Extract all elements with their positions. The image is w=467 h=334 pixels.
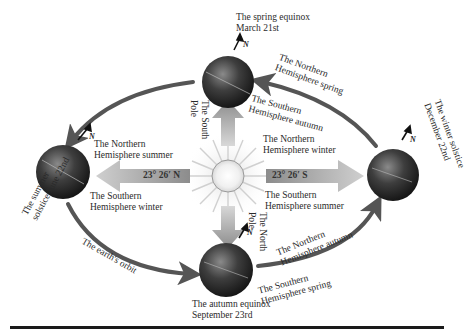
north-marker: N <box>243 40 249 49</box>
south-summer-label: The Southern Hemisphere summer <box>265 190 344 212</box>
spring-equinox-label: The spring equinox March 21st <box>236 12 310 34</box>
north-pole-label: The North Pole <box>246 212 268 251</box>
north-winter-label: The Northern Hemisphere winter <box>263 134 336 156</box>
angle-south-label: 23° 26′ S <box>272 170 308 180</box>
south-winter-label: The Southern Hemisphere winter <box>90 191 163 213</box>
autumn-equinox-label: The autumn equinox September 23rd <box>192 299 271 321</box>
globe-autumn <box>199 243 253 297</box>
south-pole-label: The South Pole <box>188 100 210 139</box>
bottom-rule <box>10 326 444 329</box>
north-marker: N <box>410 135 416 144</box>
north-summer-label: The Northern Hemisphere summer <box>94 139 173 161</box>
angle-north-label: 23° 26′ N <box>143 170 180 180</box>
globe-winter <box>367 149 419 201</box>
